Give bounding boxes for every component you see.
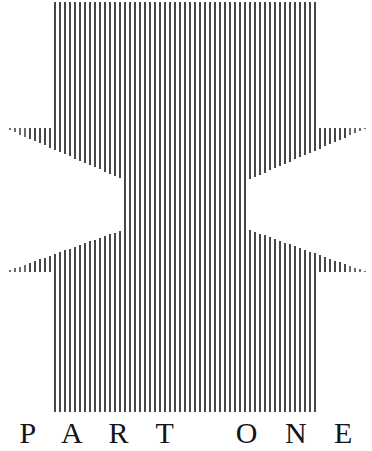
part-divider-page: P A R T O N E [0, 0, 372, 451]
stripe-bowtie-artwork [0, 0, 372, 451]
page-title: P A R T O N E [0, 418, 372, 448]
part-title-text: P A R T O N E [10, 418, 363, 448]
